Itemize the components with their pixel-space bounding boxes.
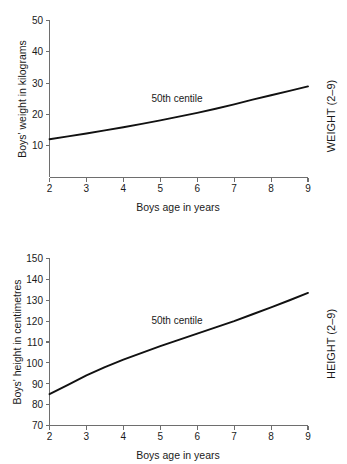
- weight-ytick-50: 50: [32, 15, 44, 26]
- weight-xtick-6: 6: [194, 183, 200, 194]
- height-xtick-4: 4: [121, 431, 127, 442]
- height-xtick-8: 8: [268, 431, 274, 442]
- height-ytick-120: 120: [26, 316, 43, 327]
- height-ytick-90: 90: [32, 379, 44, 390]
- weight-ytick-30: 30: [32, 78, 44, 89]
- height-ytick-110: 110: [27, 337, 43, 348]
- weight-xtick-7: 7: [231, 183, 237, 194]
- height-xtick-7: 7: [231, 431, 237, 442]
- weight-x-axis-title: Boys age in years: [136, 201, 219, 213]
- height-y-axis-title: Boys' height in centimetres: [11, 279, 23, 404]
- height-xtick-2: 2: [47, 431, 53, 442]
- height-chart-svg: 150 140 130 120 110 100 90 80 70 2 3 4 5…: [0, 232, 347, 464]
- height-centile-annotation: 50th centile: [151, 315, 203, 326]
- weight-chart-svg: 50 40 30 20 10 2 3 4 5 6 7 8 9 Boys' wei…: [0, 0, 347, 232]
- height-xtick-6: 6: [194, 431, 200, 442]
- height-xtick-3: 3: [84, 431, 90, 442]
- weight-xtick-8: 8: [268, 183, 274, 194]
- weight-ytick-10: 10: [32, 140, 44, 151]
- weight-xtick-2: 2: [47, 183, 53, 194]
- height-side-label: HEIGHT (2–9): [325, 309, 337, 379]
- height-ytick-130: 130: [26, 295, 43, 306]
- weight-y-axis-title: Boys' weight in kilograms: [16, 40, 28, 158]
- height-x-tick-marks: [50, 426, 309, 430]
- weight-ytick-40: 40: [32, 46, 44, 57]
- height-x-axis-title: Boys age in years: [136, 449, 219, 461]
- height-xtick-5: 5: [158, 431, 164, 442]
- weight-x-tick-marks: [50, 178, 309, 182]
- weight-xtick-9: 9: [305, 183, 311, 194]
- weight-xtick-5: 5: [158, 183, 164, 194]
- height-chart-figure: 150 140 130 120 110 100 90 80 70 2 3 4 5…: [0, 232, 347, 464]
- weight-y-tick-marks: [46, 21, 50, 146]
- weight-ytick-20: 20: [32, 109, 44, 120]
- weight-xtick-4: 4: [121, 183, 127, 194]
- weight-xtick-3: 3: [84, 183, 90, 194]
- weight-side-label: WEIGHT (2–9): [325, 80, 337, 153]
- height-ytick-80: 80: [32, 399, 44, 410]
- height-centile-curve: [50, 293, 309, 394]
- weight-centile-annotation: 50th centile: [151, 93, 203, 104]
- height-ytick-140: 140: [26, 274, 43, 285]
- height-xtick-9: 9: [305, 431, 311, 442]
- height-ytick-70: 70: [32, 420, 44, 431]
- weight-chart-figure: 50 40 30 20 10 2 3 4 5 6 7 8 9 Boys' wei…: [0, 0, 347, 232]
- height-ytick-100: 100: [26, 358, 43, 369]
- height-ytick-150: 150: [26, 253, 43, 264]
- height-y-tick-marks: [46, 259, 50, 426]
